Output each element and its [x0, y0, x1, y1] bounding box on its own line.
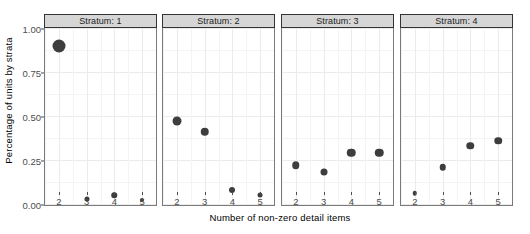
x-tick-mark [205, 192, 206, 195]
gridline-minor-vertical [246, 28, 247, 205]
x-tick-label: 2 [174, 196, 179, 207]
x-tick-label: 5 [495, 196, 500, 207]
gridline-minor-vertical [45, 28, 46, 205]
gridline-major-vertical [470, 28, 471, 205]
gridline-major-vertical [205, 28, 206, 205]
x-tick-mark [177, 192, 178, 195]
x-tick-mark [415, 192, 416, 195]
facet-strip-label: Stratum: 3 [281, 14, 394, 28]
data-point [172, 117, 181, 126]
gridline-minor-vertical [73, 28, 74, 205]
x-tick-mark [324, 192, 325, 195]
gridline-minor-vertical [219, 28, 220, 205]
x-tick-label: 4 [112, 196, 117, 207]
gridline-major-vertical [296, 28, 297, 205]
gridline-major-vertical [142, 28, 143, 205]
gridline-major-vertical [59, 28, 60, 205]
gridline-minor-vertical [393, 28, 394, 205]
x-axis-panel-1: 2345 [44, 192, 157, 210]
x-tick-label: 2 [412, 196, 417, 207]
y-tick-label: 0.25 [15, 156, 41, 167]
gridline-major-vertical [114, 28, 115, 205]
gridline-minor-vertical [401, 28, 402, 205]
data-point [292, 162, 300, 170]
data-point [439, 164, 446, 171]
plot-area [400, 28, 513, 206]
facet-strip-label: Stratum: 4 [400, 14, 513, 28]
gridline-minor-vertical [163, 28, 164, 205]
x-tick-label: 3 [202, 196, 207, 207]
gridline-major-vertical [498, 28, 499, 205]
x-tick-label: 3 [440, 196, 445, 207]
x-tick-label: 4 [468, 196, 473, 207]
gridline-minor-vertical [365, 28, 366, 205]
x-axis-panel-3: 2345 [281, 192, 394, 210]
x-axis-title: Number of non-zero detail items [44, 212, 516, 223]
x-tick-mark [87, 192, 88, 195]
x-tick-label: 4 [349, 196, 354, 207]
data-point [320, 169, 327, 176]
plot-area [162, 28, 275, 206]
x-tick-label: 3 [321, 196, 326, 207]
faceted-scatter-chart: Percentage of units by strata 0.000.250.… [0, 0, 530, 234]
gridline-minor-vertical [191, 28, 192, 205]
gridline-minor-vertical [484, 28, 485, 205]
x-tick-mark [59, 192, 60, 195]
x-tick-mark [260, 192, 261, 195]
y-tick-label: 1.00 [15, 24, 41, 35]
facet-panel-4: Stratum: 4 [400, 14, 513, 206]
gridline-major-vertical [260, 28, 261, 205]
x-tick-mark [114, 192, 115, 195]
data-point [467, 142, 475, 150]
gridline-minor-vertical [101, 28, 102, 205]
x-tick-label: 5 [257, 196, 262, 207]
facet-strip-label: Stratum: 1 [44, 14, 157, 28]
gridline-major-vertical [324, 28, 325, 205]
gridline-major-vertical [379, 28, 380, 205]
facet-panel-3: Stratum: 3 [281, 14, 394, 206]
plot-area [44, 28, 157, 206]
x-axis-panel-4: 2345 [400, 192, 513, 210]
x-tick-mark [379, 192, 380, 195]
data-point [347, 149, 356, 158]
gridline-major-vertical [232, 28, 233, 205]
x-axis-panel-2: 2345 [162, 192, 275, 210]
x-tick-mark [142, 192, 143, 195]
gridline-major-vertical [443, 28, 444, 205]
data-point [494, 137, 502, 145]
x-tick-label: 3 [84, 196, 89, 207]
x-tick-mark [470, 192, 471, 195]
data-point [52, 39, 65, 52]
gridline-minor-vertical [274, 28, 275, 205]
gridline-minor-vertical [282, 28, 283, 205]
y-tick-label: 0.75 [15, 68, 41, 79]
x-tick-label: 2 [56, 196, 61, 207]
plot-area [281, 28, 394, 206]
x-tick-mark [351, 192, 352, 195]
gridline-minor-vertical [310, 28, 311, 205]
y-tick-label: 0.50 [15, 112, 41, 123]
facet-panel-2: Stratum: 2 [162, 14, 275, 206]
x-tick-label: 4 [230, 196, 235, 207]
gridline-minor-vertical [429, 28, 430, 205]
facet-panel-1: Stratum: 1 [44, 14, 157, 206]
x-tick-mark [296, 192, 297, 195]
y-tick-label: 0.00 [15, 200, 41, 211]
x-tick-mark [498, 192, 499, 195]
gridline-minor-vertical [156, 28, 157, 205]
gridline-major-vertical [87, 28, 88, 205]
gridline-minor-vertical [457, 28, 458, 205]
x-tick-label: 5 [139, 196, 144, 207]
gridline-minor-vertical [512, 28, 513, 205]
data-point [200, 128, 209, 137]
facet-strip-label: Stratum: 2 [162, 14, 275, 28]
data-point [375, 149, 384, 158]
y-axis-ticks: 0.000.250.500.751.00 [11, 0, 41, 234]
gridline-major-vertical [415, 28, 416, 205]
x-tick-label: 2 [293, 196, 298, 207]
gridline-minor-vertical [128, 28, 129, 205]
x-tick-mark [232, 192, 233, 195]
gridline-minor-vertical [338, 28, 339, 205]
gridline-major-vertical [351, 28, 352, 205]
x-tick-mark [443, 192, 444, 195]
